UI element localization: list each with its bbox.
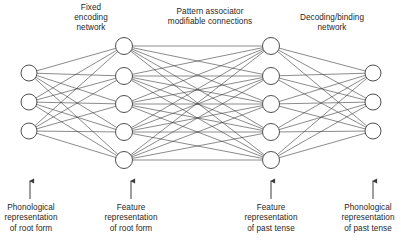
network-unit-hidden-feature-root-5 [116,152,133,169]
network-unit-hidden-feature-root-4 [116,124,133,141]
connection-line [278,106,366,156]
connection-line [279,73,365,76]
section-title-decoding-binding: Decoding/binding network [283,13,381,33]
connection-line [36,106,117,155]
network-unit-hidden-feature-past-5 [263,152,280,169]
section-title-fixed-encoding: Fixed encoding network [58,3,124,34]
connection-line [279,75,365,101]
network-unit-hidden-feature-root-2 [116,68,133,85]
network-unit-hidden-feature-root-1 [116,38,133,55]
io-label-phonological-past: Phonological representation of past tens… [335,203,401,234]
io-label-feature-root: Feature representation of root form [93,203,169,234]
connection-line [37,133,116,157]
connection-line [277,78,366,154]
network-diagram: Fixed encoding network Pattern associato… [0,0,401,246]
io-label-phonological-root: Phonological representation of root form [0,203,62,234]
network-unit-input-phonological-root-2 [21,94,37,110]
network-unit-hidden-feature-past-2 [263,68,280,85]
network-unit-output-phonological-past-2 [365,94,381,110]
io-label-feature-past: Feature representation of past tense [233,203,309,234]
io-arrows [30,181,373,199]
network-unit-hidden-feature-past-3 [263,96,280,113]
network-unit-output-phonological-past-3 [365,123,381,139]
network-unit-input-phonological-root-3 [21,123,37,139]
network-unit-hidden-feature-past-1 [263,38,280,55]
connection-line [35,78,118,154]
network-unit-hidden-feature-past-4 [263,124,280,141]
connection-edges [35,46,367,160]
section-title-pattern-associator: Pattern associator modifiable connection… [147,7,273,27]
connection-line [37,131,116,132]
connection-line [279,133,365,157]
connection-line [37,48,116,70]
network-unit-input-phonological-root-1 [21,65,37,81]
connection-line [35,52,118,126]
connection-line [36,50,117,98]
network-unit-output-phonological-past-1 [365,65,381,81]
connection-line [278,50,366,98]
network-unit-hidden-feature-root-3 [116,96,133,113]
connection-line [279,78,365,100]
connection-line [279,131,365,132]
connection-line [279,48,365,71]
